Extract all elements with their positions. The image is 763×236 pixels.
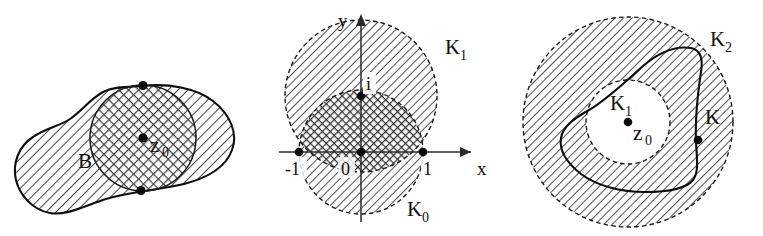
center-point-label-sub: 0 [162, 145, 169, 160]
contour-point [694, 136, 703, 145]
y-axis-label: y [338, 10, 348, 31]
figure-root: B z 0 [0, 0, 763, 236]
point-minus-one [295, 148, 304, 157]
panel-region-b: B z 0 [0, 0, 255, 236]
center-point-label: z [150, 133, 159, 157]
panel-k2: K 2 K 1 z 0 K [505, 0, 763, 236]
disc-k0-label: K [407, 197, 422, 221]
disc-k0-label-group: K 0 [407, 197, 429, 225]
disc-k2-label-sub: 2 [725, 40, 732, 55]
region-b-label: B [78, 149, 92, 173]
disc-k0-label-sub: 0 [422, 210, 429, 225]
panel-k0k1-canvas: y x -1 0 1 i [255, 0, 505, 236]
tick-i-label: i [366, 74, 371, 94]
upper-tangency-point [138, 81, 147, 90]
center-point-label-sub: 0 [645, 133, 652, 148]
panel-k0-k1: y x -1 0 1 i [255, 0, 505, 236]
disc-k1-label-sub: 1 [460, 48, 467, 63]
tick-origin-label: 0 [341, 159, 350, 179]
x-axis-label: x [477, 158, 487, 179]
tick-minus-one-group: -1 [283, 157, 307, 179]
disc-k1-label-group: K 1 [445, 35, 467, 63]
tick-origin-group: 0 [338, 157, 355, 179]
tick-one-label: 1 [423, 159, 432, 179]
disc-k1-label: K [610, 91, 625, 115]
disc-k2-label: K [710, 27, 725, 51]
x-axis-arrow-icon [460, 147, 471, 157]
disc-k1-label: K [445, 35, 460, 59]
panel-b-canvas: B z 0 [0, 0, 255, 236]
region-b-label-group: B [78, 149, 92, 173]
contour-k-label: K [705, 105, 720, 129]
contour-k-label-group: K [705, 105, 720, 129]
tick-minus-one-label: -1 [285, 159, 300, 179]
disc-k1-label-sub: 1 [625, 104, 632, 119]
center-point [138, 133, 147, 142]
tick-one-group: 1 [421, 157, 436, 179]
center-point-label: z [633, 121, 642, 145]
tick-i-group: i [363, 72, 376, 94]
panel-k2-canvas: K 2 K 1 z 0 K [505, 0, 763, 236]
y-axis-arrow-icon [356, 14, 366, 26]
point-origin [357, 148, 366, 157]
point-one [419, 148, 428, 157]
lower-tangency-point [136, 186, 145, 195]
